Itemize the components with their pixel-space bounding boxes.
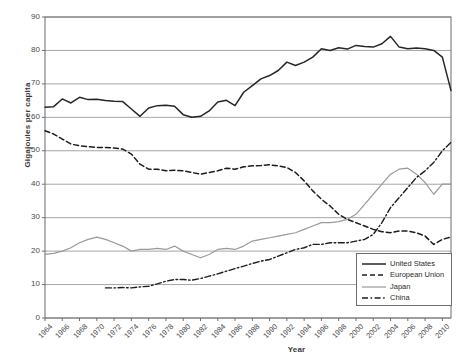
legend-item: Japan [361,281,447,293]
y-tick-label: 60 [14,112,40,121]
energy-per-capita-line-chart: Gigajoules per capita Year 9080706050403… [0,0,469,363]
x-axis-title: Year [288,345,306,354]
y-tick-label: 20 [14,246,40,255]
y-tick-label: 0 [14,313,40,322]
y-axis-title-wrapper: Gigajoules per capita [16,50,30,200]
legend-item: European Union [361,270,447,282]
legend-label: United States [390,259,435,269]
legend-swatch-icon [361,259,387,269]
plot-area [0,0,469,363]
y-tick-label: 70 [14,78,40,87]
legend-label: Japan [390,282,410,292]
y-axis-title: Gigajoules per capita [23,82,32,167]
y-tick-label: 10 [14,279,40,288]
y-tick-label: 50 [14,145,40,154]
y-tick-label: 80 [14,45,40,54]
series-line-japan [45,168,451,258]
legend: United StatesEuropean UnionJapanChina [356,253,452,306]
legend-item: United States [361,258,447,270]
y-tick-label: 40 [14,179,40,188]
series-line-united-states [45,36,451,117]
y-tick-label: 30 [14,212,40,221]
legend-swatch-icon [361,282,387,292]
y-tick-label: 90 [14,12,40,21]
legend-label: European Union [390,270,444,280]
legend-label: China [390,293,410,303]
legend-swatch-icon [361,270,387,280]
series-line-european-union [45,131,451,245]
legend-swatch-icon [361,293,387,303]
legend-item: China [361,293,447,305]
